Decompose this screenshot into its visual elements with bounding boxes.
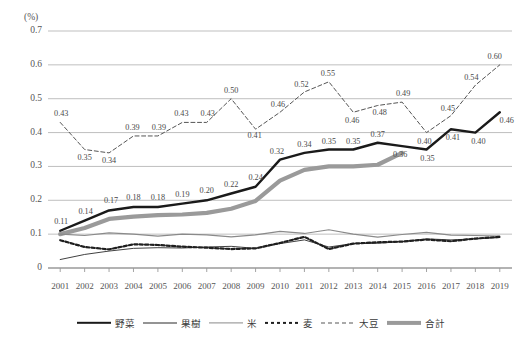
data-label-大豆: 0.46 (265, 100, 291, 109)
legend-item-麦[interactable]: 麦 (265, 316, 313, 330)
legend-label: 麦 (303, 316, 313, 330)
data-label-大豆: 0.39 (146, 123, 172, 132)
data-label-大豆: 0.54 (458, 73, 484, 82)
legend-item-大豆[interactable]: 大豆 (321, 316, 379, 330)
data-label-大豆: 0.39 (119, 123, 145, 132)
legend-label: 米 (247, 316, 257, 330)
legend-label: 野菜 (115, 316, 135, 330)
data-label-大豆: 0.43 (48, 109, 74, 118)
legend-item-果樹[interactable]: 果樹 (143, 316, 201, 330)
chart-legend: 野菜果樹米麦大豆合計 (0, 316, 522, 330)
data-label-野菜: 0.19 (169, 190, 195, 199)
legend-swatch-icon (321, 318, 355, 328)
series-line-麦 (60, 237, 500, 250)
legend-label: 大豆 (359, 316, 379, 330)
data-label-野菜: 0.35 (340, 137, 366, 146)
data-label-野菜: 0.18 (120, 193, 146, 202)
data-label-野菜: 0.18 (145, 193, 171, 202)
data-label-大豆: 0.35 (72, 153, 98, 162)
data-label-野菜: 0.22 (218, 180, 244, 189)
data-label-大豆: 0.49 (390, 89, 416, 98)
legend-label: 合計 (425, 316, 445, 330)
chart-container: (%) 00.10.20.30.40.50.60.7 2001200220032… (0, 0, 522, 349)
data-label-野菜: 0.32 (264, 147, 290, 156)
series-line-米 (60, 230, 500, 237)
legend-swatch-icon (265, 318, 299, 328)
data-label-大豆: 0.43 (168, 109, 194, 118)
data-label-野菜: 0.20 (194, 186, 220, 195)
legend-label: 果樹 (181, 316, 201, 330)
legend-swatch-icon (143, 318, 177, 328)
legend-item-米[interactable]: 米 (209, 316, 257, 330)
legend-item-野菜[interactable]: 野菜 (77, 316, 135, 330)
data-label-野菜: 0.24 (243, 173, 269, 182)
legend-swatch-icon (77, 318, 111, 328)
data-label-大豆: 0.50 (218, 86, 244, 95)
data-label-大豆: 0.60 (482, 52, 508, 61)
data-label-野菜: 0.46 (494, 116, 520, 125)
data-label-野菜: 0.41 (440, 133, 466, 142)
data-label-大豆: 0.52 (288, 80, 314, 89)
legend-item-合計[interactable]: 合計 (387, 316, 445, 330)
data-label-大豆: 0.55 (315, 69, 341, 78)
data-label-大豆: 0.41 (242, 131, 268, 140)
data-label-野菜: 0.11 (48, 217, 74, 226)
data-label-野菜: 0.35 (316, 137, 342, 146)
data-label-野菜: 0.36 (387, 150, 413, 159)
legend-swatch-icon (209, 318, 243, 328)
data-label-大豆: 0.40 (412, 137, 438, 146)
legend-swatch-icon (387, 318, 421, 328)
data-label-大豆: 0.34 (96, 156, 122, 165)
data-label-野菜: 0.35 (415, 154, 441, 163)
data-label-大豆: 0.46 (339, 116, 365, 125)
data-label-野菜: 0.40 (465, 137, 491, 146)
data-label-大豆: 0.43 (195, 109, 221, 118)
data-label-大豆: 0.48 (367, 108, 393, 117)
data-label-野菜: 0.37 (365, 130, 391, 139)
data-label-野菜: 0.34 (291, 140, 317, 149)
data-label-野菜: 0.14 (73, 207, 99, 216)
data-label-大豆: 0.45 (435, 104, 461, 113)
